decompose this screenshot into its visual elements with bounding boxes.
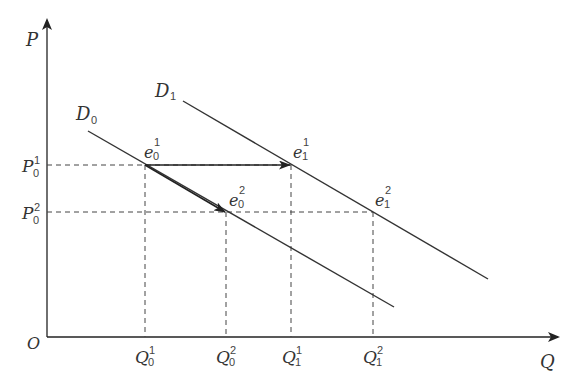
svg-text:2: 2 <box>239 184 245 196</box>
svg-text:0: 0 <box>238 198 244 210</box>
price-label-p0-2: P 0 2 <box>21 201 40 226</box>
quantity-label-q0-1: Q 0 1 <box>135 344 155 368</box>
svg-text:D: D <box>154 80 170 101</box>
svg-text:0: 0 <box>33 167 39 179</box>
equilibrium-label-e0-2: e 0 2 <box>229 184 245 210</box>
svg-text:1: 1 <box>296 344 302 356</box>
demand-curve-d1 <box>183 101 488 279</box>
svg-text:1: 1 <box>303 136 309 148</box>
svg-text:0: 0 <box>91 114 97 126</box>
equilibrium-label-e1-1: e 1 1 <box>293 136 309 162</box>
curve-label-d1: D 1 <box>154 80 176 102</box>
svg-text:0: 0 <box>153 150 159 162</box>
price-label-p0-1: P 0 1 <box>21 154 40 179</box>
x-axis-label: Q <box>540 351 555 372</box>
quantity-label-q0-2: Q 0 2 <box>216 344 236 368</box>
svg-text:1: 1 <box>295 356 301 368</box>
svg-text:2: 2 <box>377 344 383 356</box>
svg-text:Q: Q <box>216 347 230 367</box>
svg-text:Q: Q <box>135 347 149 367</box>
svg-text:1: 1 <box>170 90 176 102</box>
svg-text:Q: Q <box>282 347 296 367</box>
svg-text:1: 1 <box>34 154 40 166</box>
demand-curve-d0 <box>88 131 394 307</box>
demand-shift-diagram: O P Q D 0 D 1 P 0 1 P 0 2 Q 0 1 Q 0 2 Q … <box>0 0 582 389</box>
movement-arrow-e0-1-to-e0-2 <box>145 165 225 212</box>
svg-text:1: 1 <box>376 356 382 368</box>
equilibrium-label-e1-2: e 1 2 <box>375 184 391 210</box>
svg-text:1: 1 <box>149 344 155 356</box>
curve-label-d0: D 0 <box>75 103 97 126</box>
svg-text:1: 1 <box>302 150 308 162</box>
quantity-label-q1-1: Q 1 1 <box>282 344 302 368</box>
svg-text:2: 2 <box>230 344 236 356</box>
svg-text:1: 1 <box>384 198 390 210</box>
equilibrium-label-e0-1: e 0 1 <box>144 136 160 162</box>
quantity-label-q1-2: Q 1 2 <box>363 344 383 368</box>
svg-text:Q: Q <box>363 347 377 367</box>
svg-text:2: 2 <box>34 201 40 213</box>
svg-text:0: 0 <box>33 214 39 226</box>
svg-text:D: D <box>75 103 91 124</box>
svg-text:0: 0 <box>229 356 235 368</box>
svg-text:1: 1 <box>154 136 160 148</box>
svg-text:0: 0 <box>148 356 154 368</box>
y-axis-label: P <box>25 29 39 50</box>
origin-label: O <box>27 334 40 353</box>
svg-text:2: 2 <box>385 184 391 196</box>
